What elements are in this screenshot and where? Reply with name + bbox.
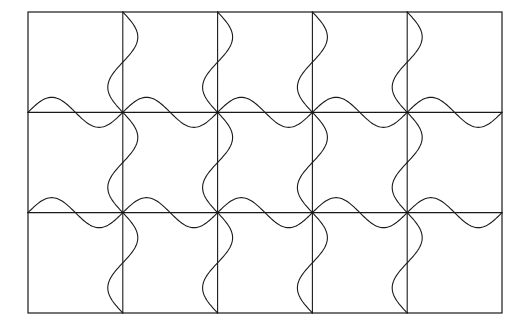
sine-waves [28, 12, 502, 313]
figure-canvas: 5 by 3 rectangular grid with sine waves … [0, 0, 529, 327]
outer-border [28, 12, 502, 313]
sine-grid-figure: 5 by 3 rectangular grid with sine waves … [0, 0, 529, 327]
grid-lines [28, 12, 502, 313]
figure-outer-rectangle [28, 12, 502, 313]
